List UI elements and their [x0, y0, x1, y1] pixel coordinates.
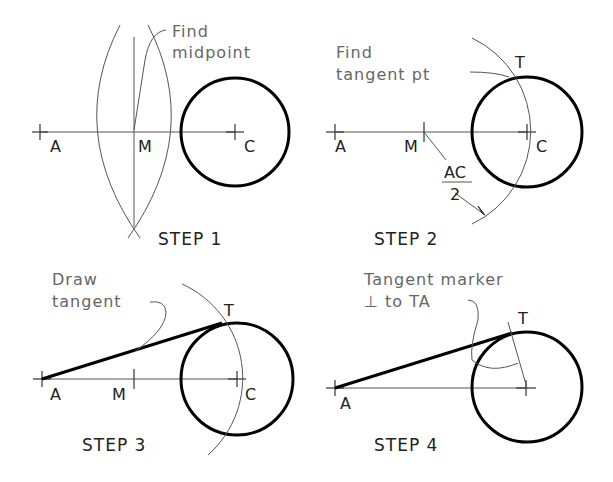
label-c: C — [244, 137, 255, 156]
panel-step-4: A T Tangent marker ⊥ to TA STEP 4 — [326, 270, 582, 455]
tangent-line — [335, 333, 512, 388]
note-line-1: Find — [336, 43, 373, 62]
label-t: T — [514, 53, 525, 72]
step-label: STEP 1 — [158, 229, 222, 249]
note-line-2: tangent — [52, 292, 122, 311]
panel-step-2: AC 2 A M C T Find tangent pt STEP 2 — [326, 38, 582, 249]
label-c: C — [245, 385, 256, 404]
step-label: STEP 3 — [82, 435, 146, 455]
label-m: M — [138, 137, 152, 156]
note-line-1: Find — [172, 22, 209, 41]
note-line-2: tangent pt — [336, 65, 430, 84]
note-line-2: ⊥ to TA — [364, 292, 431, 311]
label-t: T — [517, 309, 528, 328]
note-line-2: midpoint — [172, 43, 251, 62]
leader-line — [134, 30, 166, 130]
label-t: T — [223, 301, 234, 320]
step-label: STEP 2 — [374, 229, 438, 249]
panel-step-1: A M C Find midpoint STEP 1 — [32, 22, 289, 249]
label-a: A — [340, 394, 351, 413]
fraction-numerator: AC — [444, 163, 466, 182]
label-a: A — [335, 137, 346, 156]
fraction-denominator: 2 — [450, 185, 460, 204]
dimension-leader — [424, 132, 446, 160]
tangent-construction-diagram: A M C Find midpoint STEP 1 AC 2 A M C T … — [0, 0, 613, 482]
label-c: C — [536, 137, 547, 156]
tangent-line — [42, 323, 222, 379]
panel-step-3: A M C T Draw tangent STEP 3 — [33, 270, 293, 455]
note-line-1: Tangent marker — [363, 270, 504, 289]
label-m: M — [404, 137, 418, 156]
label-m: M — [112, 385, 126, 404]
note-line-1: Draw — [52, 270, 98, 289]
label-a: A — [50, 137, 61, 156]
label-a: A — [50, 385, 61, 404]
step-label: STEP 4 — [374, 435, 438, 455]
leader-line — [470, 72, 509, 77]
